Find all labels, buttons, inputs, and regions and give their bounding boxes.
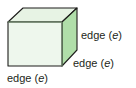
edge-label-right-close: ) [118, 29, 122, 41]
cube-edge-diagram: edge (e) edge (e) edge (e) [0, 0, 136, 88]
edge-label-bottom: edge (e) [7, 72, 48, 84]
edge-label-bottom-close: ) [44, 72, 48, 84]
edge-label-middle-close: ) [110, 57, 114, 69]
edge-label-bottom-text: edge ( [7, 72, 38, 84]
edge-label-middle-text: edge ( [73, 57, 104, 69]
edge-label-right-text: edge ( [81, 29, 112, 41]
edge-label-right: edge (e) [81, 29, 122, 41]
edge-label-middle: edge (e) [73, 57, 114, 69]
cube-front-face [8, 22, 62, 66]
